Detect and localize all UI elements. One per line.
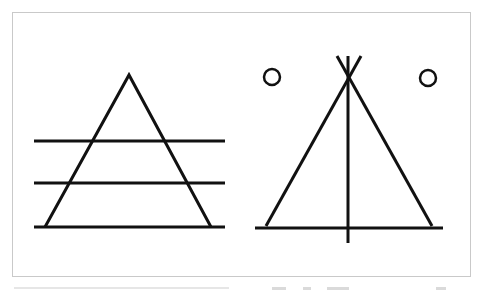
- caption-mark: [272, 287, 286, 290]
- caption-mark: [303, 287, 311, 290]
- triangle-with-horizontal-lines: [34, 75, 225, 227]
- circle: [264, 69, 280, 85]
- caption-mark: [327, 287, 349, 290]
- tipi-pole: [337, 56, 432, 226]
- diagram-canvas: [0, 0, 489, 291]
- circle: [420, 70, 436, 86]
- triangle-outline: [45, 75, 211, 227]
- caption-right-fragment: [272, 284, 482, 291]
- caption-left-fragment: [14, 287, 229, 289]
- caption-mark: [436, 287, 446, 290]
- tipi-with-circles: [255, 56, 443, 243]
